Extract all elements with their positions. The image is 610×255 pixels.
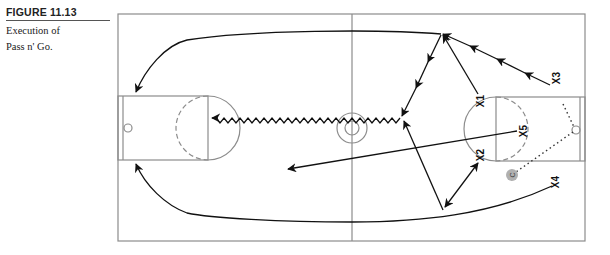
- cut-x1-to-wing: [443, 35, 478, 94]
- player-x1: X1: [475, 94, 486, 107]
- right-rim: [572, 126, 580, 134]
- left-free-throw-arc-solid: [208, 96, 240, 160]
- play-movements: [136, 31, 552, 222]
- coach-marker: C: [506, 169, 518, 181]
- left-rim: [124, 124, 132, 132]
- court-lines: [118, 14, 585, 241]
- player-x2: X2: [475, 148, 486, 161]
- dribble-zigzag: [216, 118, 400, 123]
- pass-wing-down-3: [402, 88, 416, 116]
- player-x5: X5: [518, 124, 529, 137]
- cut-bottom-wing-up: [404, 121, 443, 210]
- run-x4-to-left-lane: [136, 164, 552, 222]
- pass-wing-down-2: [416, 62, 428, 88]
- pass-arrow-x3-4: [443, 34, 470, 46]
- court-diagram: C X1 X2 X3 X4 X5: [0, 0, 610, 255]
- players: X1 X2 X3 X4 X5: [475, 71, 562, 188]
- left-free-throw-arc-dashed: [176, 96, 208, 160]
- pass-wing-down-1: [428, 35, 441, 62]
- dotted-lane-to-rim: [563, 104, 574, 127]
- run-top-to-left-lane: [136, 31, 441, 92]
- pass-arrow-x3-1: [525, 73, 550, 85]
- player-x3: X3: [551, 71, 562, 84]
- pass-arrow-x3-2: [497, 59, 525, 73]
- pass-x2-bottom-wing: [445, 163, 478, 207]
- coach-label: C: [509, 172, 516, 177]
- player-x4: X4: [550, 175, 561, 188]
- pass-arrow-x3-3: [470, 46, 497, 59]
